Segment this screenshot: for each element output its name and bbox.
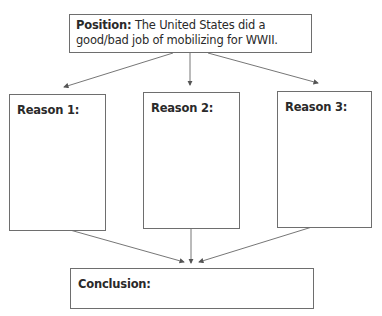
reason-2-label: Reason 2:	[151, 101, 232, 115]
arrow-reason1-to-conclusion	[70, 230, 184, 262]
reason-3-box[interactable]: Reason 3:	[277, 91, 372, 228]
arrow-position-to-reason3	[208, 53, 318, 83]
position-box: Position: The United States did a good/b…	[69, 14, 312, 53]
conclusion-box[interactable]: Conclusion:	[70, 268, 314, 309]
arrow-reason3-to-conclusion	[199, 227, 312, 262]
reason-1-box[interactable]: Reason 1:	[9, 94, 106, 231]
conclusion-label: Conclusion:	[78, 277, 306, 291]
reason-1-label: Reason 1:	[17, 103, 98, 117]
arrow-position-to-reason1	[64, 53, 173, 87]
position-label: Position:	[76, 18, 131, 32]
reason-2-box[interactable]: Reason 2:	[143, 92, 240, 229]
reason-3-label: Reason 3:	[285, 100, 364, 114]
